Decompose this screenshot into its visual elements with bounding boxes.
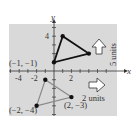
- x-tick-label-neg4: -4: [15, 74, 22, 83]
- x-axis-label: x: [126, 66, 131, 76]
- point-label-neg1-neg1: (−1, −1): [9, 58, 37, 68]
- translated-triangle-vertex: [87, 51, 91, 55]
- translation-label-right: 2 units: [82, 93, 105, 103]
- original-triangle-vertex: [69, 95, 73, 99]
- y-tick-label-4: 4: [45, 32, 49, 41]
- y-axis-label: y: [50, 12, 55, 22]
- translated-triangle-vertex: [61, 34, 65, 38]
- coordinate-plane: y x -4 -2 2 4 (−1, −1) (−2, −4) (2, −3) …: [0, 0, 138, 118]
- x-tick-label-neg2: -2: [31, 74, 38, 83]
- translated-triangle-vertex: [52, 60, 56, 64]
- original-triangle-vertex: [43, 78, 47, 82]
- point-label-neg2-neg4: (−2, −4): [9, 105, 37, 115]
- x-tick-label-2: 2: [69, 74, 73, 83]
- translation-label-up: 5 units: [108, 43, 118, 66]
